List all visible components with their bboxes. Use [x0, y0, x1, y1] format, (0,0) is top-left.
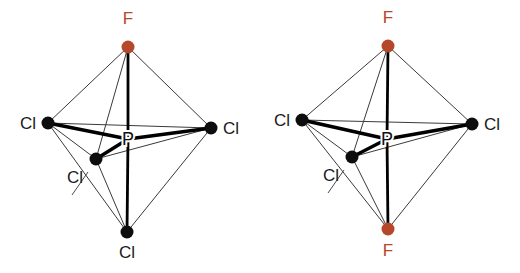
atom-cl-equatorial-right — [205, 122, 218, 135]
structure-right-pcl3f2: P F Cl Cl Cl F — [274, 8, 500, 260]
atom-cl-equatorial-right — [466, 118, 479, 131]
atom-f-axial-bottom — [382, 223, 395, 236]
atom-f-axial-top — [122, 41, 135, 54]
edge-ftop-clleft — [302, 46, 388, 120]
edge-clfront-clright — [352, 124, 472, 157]
atom-cl-equatorial-front — [346, 151, 359, 164]
edge-clfront-clright — [96, 128, 211, 159]
bond-p-f-axial-top — [387, 46, 388, 139]
right-center-atom-label: P — [381, 129, 393, 149]
edge-clfront-fbottom — [352, 157, 388, 229]
atom-cl-equatorial-left — [296, 114, 309, 127]
left-label-cl-axial-bottom: Cl — [119, 243, 135, 262]
structure-left-pcl4f: P F Cl Cl Cl Cl — [20, 9, 239, 262]
edge-ftop-clright — [388, 46, 472, 124]
left-label-f-axial-top: F — [123, 9, 133, 28]
right-label-f-axial-bottom: F — [383, 241, 393, 260]
right-label-cl-equatorial-front: Cl — [323, 166, 339, 185]
molecular-structures-figure: P F Cl Cl Cl Cl — [0, 0, 520, 273]
edge-clright-clbottom — [127, 128, 211, 232]
bond-p-f-axial-bottom — [387, 139, 388, 229]
bond-p-cl-axial-bottom — [127, 139, 128, 232]
atom-cl-equatorial-front — [90, 153, 103, 166]
left-label-cl-equatorial-front: Cl — [67, 168, 83, 187]
atom-cl-axial-bottom — [121, 226, 134, 239]
atom-cl-equatorial-left — [42, 117, 55, 130]
edge-ftop-clright — [128, 47, 211, 128]
edge-ftop-clleft — [48, 47, 128, 123]
bond-p-cl-equatorial-right — [387, 124, 472, 139]
edge-clright-fbottom — [388, 124, 472, 229]
structures-canvas: P F Cl Cl Cl Cl — [0, 0, 520, 273]
left-label-cl-equatorial-left: Cl — [20, 114, 36, 133]
left-label-cl-equatorial-right: Cl — [223, 119, 239, 138]
right-label-cl-equatorial-left: Cl — [274, 111, 290, 130]
atom-f-axial-top — [382, 40, 395, 53]
edge-clleft-clbottom — [48, 123, 127, 232]
right-label-f-axial-top: F — [383, 8, 393, 27]
left-center-atom-label: P — [122, 129, 134, 149]
right-label-cl-equatorial-right: Cl — [484, 115, 500, 134]
bond-p-cl-equatorial-right — [128, 128, 211, 139]
